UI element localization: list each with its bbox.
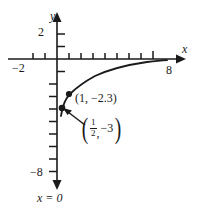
data-point-half	[59, 105, 66, 112]
y-tick-label-2: 2	[38, 26, 44, 38]
graph-figure: y x 2 −2 8 −8 x = 0 (1, −2.3) ( 1 2 , −3…	[0, 0, 197, 213]
plot-canvas	[0, 0, 197, 213]
log-curve	[61, 60, 167, 116]
close-paren: )	[115, 117, 122, 140]
coordinate-y-value: −3	[101, 122, 114, 134]
x-axis-label: x	[182, 43, 187, 55]
coordinate-comma: ,	[97, 127, 100, 140]
x-tick-label-8: 8	[166, 64, 172, 76]
data-point-1	[66, 91, 72, 97]
open-paren: (	[82, 117, 89, 140]
point-label-one: (1, −2.3)	[75, 92, 117, 104]
x-tick-label-minus-2: −2	[12, 62, 25, 74]
point-label-half: ( 1 2 , −3 )	[80, 117, 123, 140]
y-axis-label: y	[50, 10, 55, 22]
y-axis-bottom-arrowhead	[53, 180, 62, 190]
y-tick-label-minus-8: −8	[30, 166, 43, 178]
asymptote-label: x = 0	[37, 192, 62, 204]
x-axis-ticks	[33, 51, 153, 59]
